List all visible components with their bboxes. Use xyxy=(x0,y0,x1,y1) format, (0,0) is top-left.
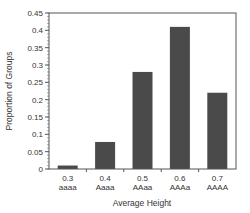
bar xyxy=(170,27,190,169)
x-tick-label: AAaa xyxy=(133,183,153,192)
x-tick-label: aaaa xyxy=(59,183,77,192)
y-tick-label: 0.2 xyxy=(32,96,44,105)
y-axis-label: Proportion of Groups xyxy=(4,52,14,131)
y-tick-label: 0.05 xyxy=(27,148,43,157)
bar-chart: 00.050.10.150.20.250.30.350.40.45 0.3aaa… xyxy=(0,0,250,213)
x-tick-label: 0.4 xyxy=(100,174,112,183)
bars xyxy=(58,27,228,169)
bar xyxy=(58,166,78,169)
x-tick-label: Aaaa xyxy=(96,183,115,192)
y-axis-ticks: 00.050.10.150.20.250.30.350.40.45 xyxy=(27,9,49,174)
x-tick-label: 0.5 xyxy=(137,174,149,183)
x-axis-label: Average Height xyxy=(113,198,172,208)
x-tick-label: AAAa xyxy=(170,183,191,192)
y-tick-label: 0.25 xyxy=(27,78,43,87)
y-tick-label: 0.1 xyxy=(32,130,44,139)
bar xyxy=(133,72,153,169)
y-tick-label: 0.3 xyxy=(32,61,44,70)
x-tick-label: AAAA xyxy=(207,183,229,192)
x-tick-label: 0.6 xyxy=(174,174,186,183)
y-tick-label: 0.15 xyxy=(27,113,43,122)
x-tick-label: 0.7 xyxy=(212,174,224,183)
bar xyxy=(207,93,227,169)
y-tick-label: 0.4 xyxy=(32,26,44,35)
bar xyxy=(95,142,115,169)
x-tick-label: 0.3 xyxy=(62,174,74,183)
y-tick-label: 0 xyxy=(39,165,44,174)
y-tick-label: 0.35 xyxy=(27,44,43,53)
y-tick-label: 0.45 xyxy=(27,9,43,18)
x-axis-ticks: 0.3aaaa0.4Aaaa0.5AAaa0.6AAAa0.7AAAA xyxy=(59,169,229,192)
